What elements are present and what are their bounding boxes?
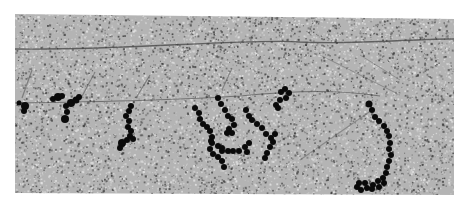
particle [192,105,198,111]
particle [244,149,250,155]
particle [384,164,390,170]
particle [208,138,214,144]
particle [380,175,386,181]
particle [263,131,269,137]
particle [218,101,224,107]
specimen-field [0,0,464,209]
particle [210,151,216,157]
particle [64,109,70,115]
particle [126,108,132,114]
particle [283,95,289,101]
particle [267,144,273,150]
particle [215,95,221,101]
particle [383,170,389,176]
particle [369,107,375,113]
particle [386,146,392,152]
particle [76,94,82,100]
particle [207,128,213,134]
particle [21,108,27,114]
particle [117,145,123,151]
particle [196,110,202,116]
particle [236,148,242,154]
particle [386,158,392,164]
particle [229,116,235,122]
particle [259,125,265,131]
particle [254,121,260,127]
particle [17,101,22,106]
particle [387,140,393,146]
particle [272,131,278,137]
particle [243,107,249,113]
particle [61,115,69,123]
particle [362,180,368,186]
particle [219,158,225,164]
particle [221,164,227,170]
micrograph-image [0,0,464,209]
particle [262,155,268,161]
particle [369,186,375,192]
particle [356,180,362,186]
particle [286,90,292,96]
particle [386,133,392,139]
particle [388,152,394,158]
particle [219,145,225,151]
particle [197,116,203,122]
particle [123,113,129,119]
particle [222,107,228,113]
particle [366,101,373,108]
particle [230,148,236,154]
particle [130,136,136,142]
particle [275,105,281,111]
particle [376,184,382,190]
particle [270,139,276,145]
particle [231,122,237,128]
particle [381,180,387,186]
particle [207,146,213,152]
particle [277,97,283,103]
particle [59,93,65,99]
particle [229,130,235,136]
particle [375,178,381,184]
particle [126,118,132,124]
particle [381,123,387,129]
particle [128,128,134,134]
particle [376,118,382,124]
particle [249,117,255,123]
particle [246,140,252,146]
